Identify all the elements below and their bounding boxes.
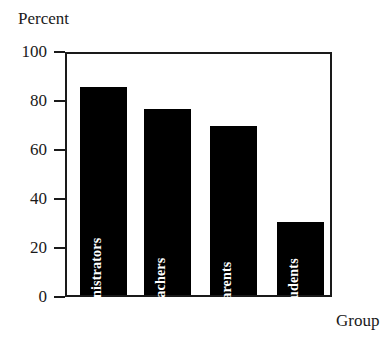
bar-label-text: Students bbox=[287, 258, 301, 312]
y-tick-mark bbox=[54, 100, 65, 102]
y-tick-label: 40 bbox=[1, 190, 47, 207]
bar-label: Administrators bbox=[90, 238, 104, 333]
bar-label-text: Administrators bbox=[90, 238, 104, 333]
y-tick-mark bbox=[54, 247, 65, 249]
y-tick-label: 0 bbox=[1, 288, 47, 305]
plot-area: AdministratorsTeachersParentsStudents bbox=[65, 52, 332, 297]
y-tick-mark bbox=[54, 149, 65, 151]
bar-label-text: Parents bbox=[220, 261, 234, 308]
y-tick-mark bbox=[54, 296, 65, 298]
y-axis-title: Percent bbox=[18, 9, 69, 29]
y-tick-mark bbox=[54, 198, 65, 200]
bar-chart: Percent Group 100806040200 Administrator… bbox=[0, 0, 392, 342]
bar-students[interactable]: Students bbox=[277, 222, 324, 296]
y-tick-label: 100 bbox=[1, 43, 47, 60]
y-tick-label: 20 bbox=[1, 239, 47, 256]
y-tick-mark bbox=[54, 51, 65, 53]
bar-label-text: Teachers bbox=[154, 258, 168, 313]
bar-administrators[interactable]: Administrators bbox=[80, 87, 127, 295]
bar-label: Teachers bbox=[154, 258, 168, 313]
bar-teachers[interactable]: Teachers bbox=[144, 109, 191, 295]
bar-parents[interactable]: Parents bbox=[210, 126, 257, 295]
y-tick-label: 80 bbox=[1, 92, 47, 109]
x-axis-title: Group bbox=[336, 311, 379, 331]
y-tick-label: 60 bbox=[1, 141, 47, 158]
bar-label: Students bbox=[287, 258, 301, 312]
bar-label: Parents bbox=[220, 261, 234, 308]
